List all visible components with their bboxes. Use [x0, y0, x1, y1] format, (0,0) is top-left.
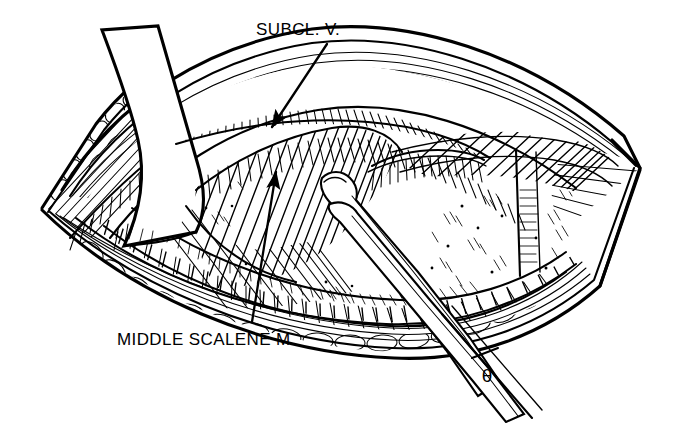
illustration-canvas: θ SUBCL. V. MIDDLE SCALENE M. [0, 0, 674, 423]
middle-scalene-label: MIDDLE SCALENE M. [117, 330, 296, 349]
subclavian-vein-label: SUBCL. V. [256, 20, 340, 39]
theta-angle-label: θ [482, 365, 493, 386]
surgical-illustration-figure: θ SUBCL. V. MIDDLE SCALENE M. [0, 0, 674, 423]
